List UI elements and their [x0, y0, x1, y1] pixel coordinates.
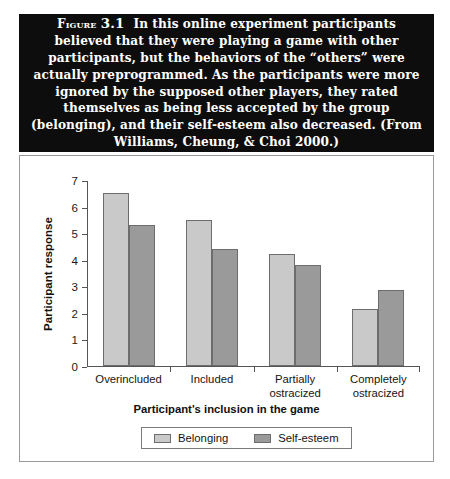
bar-belonging[interactable] [103, 193, 129, 366]
chart-panel: Participant response 01234567 Overinclud… [19, 155, 434, 462]
legend-swatch-icon [154, 434, 171, 443]
figure-number: 3.1 [101, 15, 125, 31]
y-axis-title: Participant response [40, 181, 56, 367]
chart-legend: BelongingSelf-esteem [141, 427, 352, 449]
x-category-label: Completely ostracized [337, 373, 420, 400]
x-tick [254, 367, 255, 372]
legend-label: Self-esteem [278, 432, 338, 444]
bar-belonging[interactable] [186, 220, 212, 366]
bar-belonging[interactable] [269, 254, 295, 366]
y-tick-label: 0 [72, 361, 78, 373]
figure-caption-body: In this online experiment participants b… [31, 17, 422, 149]
y-tick-label: 5 [72, 228, 78, 240]
y-tick [82, 367, 87, 368]
plot-area: 01234567 OverincludedIncludedPartially o… [87, 181, 420, 367]
bar-self-esteem[interactable] [129, 225, 155, 366]
x-tick [337, 367, 338, 372]
bar-self-esteem[interactable] [378, 290, 404, 366]
bar-belonging[interactable] [352, 309, 378, 366]
x-category-label: Partially ostracized [254, 373, 337, 400]
bar-group: Included [170, 220, 253, 366]
legend-swatch-icon [254, 434, 271, 443]
figure-container: Figure 3.1In this online experiment part… [0, 0, 450, 479]
figure-caption-block: Figure 3.1In this online experiment part… [19, 14, 434, 152]
x-tick [419, 367, 420, 372]
legend-item[interactable]: Self-esteem [254, 432, 338, 444]
legend-label: Belonging [178, 432, 228, 444]
y-tick-label: 7 [72, 175, 78, 187]
y-tick-label: 1 [72, 334, 78, 346]
bar-group: Completely ostracized [337, 290, 420, 366]
x-category-label: Overincluded [87, 373, 170, 387]
x-tick [170, 367, 171, 372]
y-tick-label: 2 [72, 308, 78, 320]
y-tick [82, 181, 87, 182]
y-tick-label: 6 [72, 202, 78, 214]
bar-self-esteem[interactable] [295, 265, 321, 366]
bar-group: Partially ostracized [254, 254, 337, 366]
bar-group: Overincluded [87, 193, 170, 366]
figure-label: Figure [57, 17, 96, 31]
y-axis-title-text: Participant response [42, 217, 54, 331]
bar-self-esteem[interactable] [212, 249, 238, 366]
figure-caption-text: Figure 3.1In this online experiment part… [19, 15, 434, 150]
y-tick-label: 3 [72, 281, 78, 293]
x-category-label: Included [170, 373, 253, 387]
x-axis-title: Participant's inclusion in the game [20, 403, 433, 415]
y-tick-label: 4 [72, 255, 78, 267]
legend-item[interactable]: Belonging [154, 432, 228, 444]
